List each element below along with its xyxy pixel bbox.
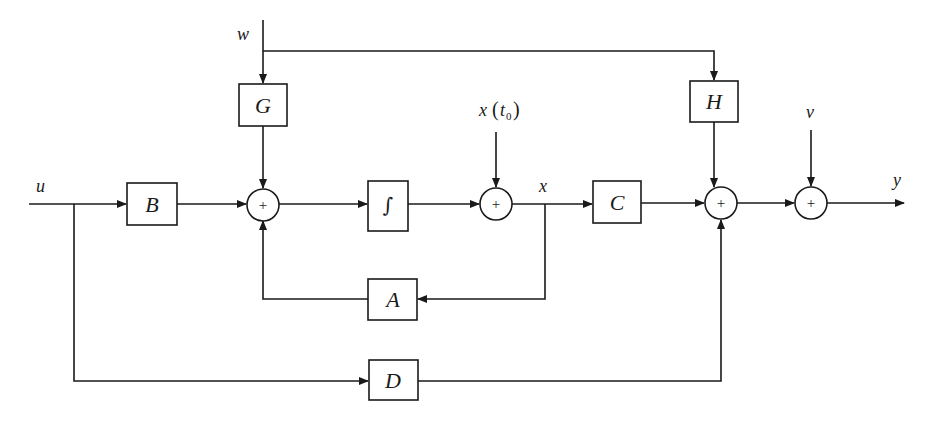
block-G: G <box>239 84 287 126</box>
plus-icon: + <box>492 196 500 212</box>
signal-w-label: w <box>237 24 249 44</box>
wire-u-to-D <box>74 204 368 381</box>
summing-junction-1: + <box>247 189 279 221</box>
signal-y-label: y <box>891 170 901 190</box>
block-B-label: B <box>145 192 158 217</box>
plus-icon: + <box>259 197 267 213</box>
block-C-label: C <box>610 190 625 215</box>
block-C: C <box>593 181 641 223</box>
plus-icon: + <box>717 195 725 211</box>
block-integrator: ∫ <box>368 181 408 231</box>
block-H: H <box>690 81 738 122</box>
x0-paren-open: ( <box>492 98 499 121</box>
block-diagram: B G ∫ A C H D + + + + u w x <box>0 0 926 423</box>
summing-junction-4: + <box>795 187 827 219</box>
wire-w-to-H <box>263 51 714 80</box>
x0-x: x <box>478 100 487 120</box>
wire-A-to-sum1 <box>263 221 368 299</box>
block-G-label: G <box>255 93 271 118</box>
plus-icon: + <box>807 195 815 211</box>
signal-x-t0-label: x ( t 0 ) <box>478 98 520 122</box>
signal-v-label: v <box>806 102 814 122</box>
block-A: A <box>368 279 417 320</box>
block-A-label: A <box>384 287 400 312</box>
block-H-label: H <box>705 89 723 114</box>
block-B: B <box>127 183 177 225</box>
signal-u-label: u <box>36 176 45 196</box>
block-D: D <box>369 360 418 400</box>
block-D-label: D <box>384 368 401 393</box>
summing-junction-3: + <box>705 187 737 219</box>
signal-x-label: x <box>538 176 547 196</box>
x0-paren-close: ) <box>513 98 520 121</box>
integrator-icon: ∫ <box>383 193 393 217</box>
wire-D-to-sum3 <box>418 220 721 381</box>
x0-subscript: 0 <box>506 110 512 122</box>
summing-junction-2: + <box>480 188 512 220</box>
wire-x-to-A <box>418 204 545 299</box>
